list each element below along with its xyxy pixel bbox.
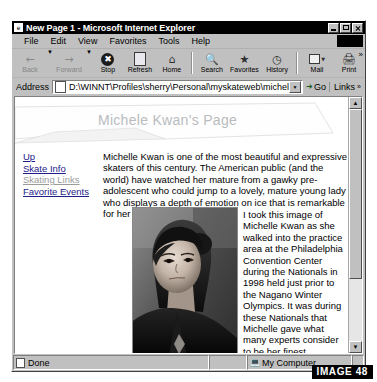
web-page-content: Michele Kwan's Page Up Skate Info Skatin… (15, 97, 348, 353)
zone-label: My Computer (262, 358, 316, 368)
mail-label: Mail (311, 66, 324, 74)
maximize-button[interactable] (340, 23, 351, 33)
browser-window: e New Page 1 - Microsoft Internet Explor… (11, 20, 366, 372)
close-button[interactable] (352, 23, 363, 33)
links-label: Links (334, 82, 355, 92)
window-controls (328, 23, 363, 33)
menu-bar: File Edit View Favorites Tools Help (12, 34, 365, 49)
navigation-links: Up Skate Info Skating Links Favorite Eve… (23, 151, 99, 197)
status-message: Done (13, 355, 209, 370)
address-input[interactable]: D:\WINNT\Profiles\sherry\Personal\myskat… (52, 80, 303, 94)
window-title: New Page 1 - Microsoft Internet Explorer (26, 23, 328, 33)
address-bar: Address D:\WINNT\Profiles\sherry\Persona… (12, 78, 365, 96)
page-viewport: Michele Kwan's Page Up Skate Info Skatin… (14, 96, 363, 354)
nav-link-favorite-events[interactable]: Favorite Events (23, 186, 99, 198)
go-arrow-icon: ➜ (306, 82, 313, 91)
links-button[interactable]: Links » (329, 82, 363, 92)
toolbar-separator-2 (296, 52, 298, 74)
address-value: D:\WINNT\Profiles\sherry\Personal\myskat… (69, 82, 289, 92)
page-title: Michele Kwan's Page (15, 112, 348, 128)
home-label: Home (163, 66, 182, 74)
stop-icon: ✖ (100, 52, 116, 66)
home-icon: ⌂ (164, 52, 180, 66)
favorites-label: Favorites (230, 66, 259, 74)
document-icon (55, 81, 66, 93)
title-bar: e New Page 1 - Microsoft Internet Explor… (12, 21, 365, 34)
mail-button[interactable]: ▼ Mail (301, 49, 333, 77)
scroll-down-button[interactable]: ▼ (349, 341, 362, 353)
document-icon (16, 358, 25, 368)
toolbar: ← Back ▼ → Forward ▼ ✖ Stop Refresh ⌂ Ho… (12, 49, 365, 78)
computer-icon: 💻 (250, 358, 259, 367)
status-text: Done (28, 358, 50, 368)
menu-item-help[interactable]: Help (185, 35, 216, 47)
arrow-left-icon: ← (22, 52, 38, 66)
menu-item-favorites[interactable]: Favorites (103, 35, 152, 47)
favorites-button[interactable]: ★ Favorites (228, 49, 261, 77)
minimize-button[interactable] (328, 23, 339, 33)
toolbar-separator (191, 52, 193, 74)
history-clock-icon: ◷ (269, 52, 285, 66)
menu-item-tools[interactable]: Tools (152, 35, 185, 47)
address-label: Address (16, 82, 49, 92)
nav-link-skating-links[interactable]: Skating Links (23, 174, 99, 186)
back-button[interactable]: ← Back (14, 49, 46, 77)
chevron-right-icon: » (357, 83, 361, 90)
arrow-right-icon: → (61, 52, 77, 66)
ie-document-icon: e (14, 23, 23, 32)
ie-logo-animation (337, 35, 363, 47)
photo-caption-paragraph: I took this image of Michelle Kwan as sh… (243, 209, 347, 353)
history-button[interactable]: ◷ History (261, 49, 293, 77)
menu-item-edit[interactable]: Edit (45, 35, 73, 47)
toolbar-overflow-icon[interactable]: » (359, 50, 363, 59)
stop-button[interactable]: ✖ Stop (92, 49, 124, 77)
menu-item-view[interactable]: View (72, 35, 103, 47)
chevron-down-icon[interactable]: ▼ (289, 81, 301, 93)
nav-link-up[interactable]: Up (23, 151, 99, 163)
mail-icon: ▼ (309, 52, 325, 66)
menu-item-file[interactable]: File (18, 35, 45, 47)
back-label: Back (22, 66, 38, 74)
scrollbar-thumb[interactable] (349, 109, 362, 279)
search-icon: 🔍 (204, 52, 220, 66)
scroll-up-button[interactable]: ▲ (349, 97, 362, 109)
go-button[interactable]: ➜ Go (303, 82, 329, 92)
printer-icon: 🖨 (341, 52, 357, 66)
refresh-icon (132, 52, 148, 66)
status-progress-cell (209, 355, 247, 370)
stop-label: Stop (101, 66, 115, 74)
go-label: Go (314, 82, 326, 92)
refresh-label: Refresh (128, 66, 153, 74)
print-label: Print (342, 66, 356, 74)
history-label: History (266, 66, 288, 74)
scrollbar-track[interactable] (349, 109, 362, 341)
search-button[interactable]: 🔍 Search (196, 49, 228, 77)
favorites-star-icon: ★ (236, 52, 252, 66)
nav-link-skate-info[interactable]: Skate Info (23, 163, 99, 175)
image-caption-badge: IMAGE 48 (312, 365, 373, 379)
michelle-kwan-photo (132, 207, 238, 353)
forward-button[interactable]: → Forward (53, 49, 85, 77)
forward-label: Forward (56, 66, 82, 74)
vertical-scrollbar[interactable]: ▲ ▼ (348, 97, 362, 353)
search-label: Search (201, 66, 223, 74)
refresh-button[interactable]: Refresh (124, 49, 156, 77)
home-button[interactable]: ⌂ Home (156, 49, 188, 77)
